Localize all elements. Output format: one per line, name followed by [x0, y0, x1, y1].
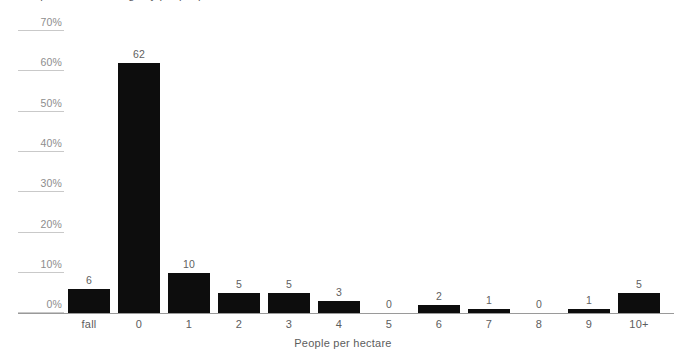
gridline	[18, 30, 64, 31]
y-axis-tick-label: 70%	[40, 16, 62, 28]
bar-series: 6 fall 62 0 10 1 5 2 5	[64, 0, 676, 313]
gridline	[18, 151, 64, 152]
bar-group-9[interactable]: 1 9	[564, 0, 614, 313]
x-axis-category-label: 2	[214, 318, 264, 330]
bar[interactable]	[418, 305, 460, 313]
bar[interactable]	[118, 63, 160, 313]
bar-group-2[interactable]: 5 2	[214, 0, 264, 313]
y-axis-tick-label: 40%	[40, 137, 62, 149]
x-axis-category-label: 0	[114, 318, 164, 330]
x-axis-category-label: 7	[464, 318, 514, 330]
bar-group-5[interactable]: 0 5	[364, 0, 414, 313]
bar-group-10plus[interactable]: 5 10+	[614, 0, 664, 313]
bar-value-label: 3	[314, 286, 364, 298]
bar[interactable]	[468, 309, 510, 313]
bar[interactable]	[268, 293, 310, 313]
x-axis-category-label: 1	[164, 318, 214, 330]
gridline	[18, 191, 64, 192]
x-axis-category-label: 4	[314, 318, 364, 330]
x-axis-category-label: 5	[364, 318, 414, 330]
x-axis-category-label: 3	[264, 318, 314, 330]
y-axis-tick-label: 0%	[46, 298, 62, 310]
bar-value-label: 1	[464, 294, 514, 306]
bar-value-label: 6	[64, 274, 114, 286]
x-axis-category-label: 6	[414, 318, 464, 330]
bar-group-3[interactable]: 5 3	[264, 0, 314, 313]
bar-value-label: 62	[114, 48, 164, 60]
bar[interactable]	[168, 273, 210, 313]
bar-group-8[interactable]: 0 8	[514, 0, 564, 313]
y-axis-tick-label: 10%	[40, 258, 62, 270]
bar[interactable]	[218, 293, 260, 313]
bar-group-4[interactable]: 3 4	[314, 0, 364, 313]
y-axis-tick-label: 30%	[40, 177, 62, 189]
plot-area: 0% 10% 20% 30% 40% 50% 60% 70%	[0, 0, 686, 353]
gridline	[18, 111, 64, 112]
bar-value-label: 10	[164, 258, 214, 270]
bar-group-1[interactable]: 10 1	[164, 0, 214, 313]
y-axis-tick-label: 60%	[40, 56, 62, 68]
x-axis-category-label: 9	[564, 318, 614, 330]
x-axis-category-label: fall	[64, 318, 114, 330]
bar-value-label: 0	[364, 298, 414, 310]
bar-value-label: 0	[514, 298, 564, 310]
bar[interactable]	[318, 301, 360, 313]
bar[interactable]	[618, 293, 660, 313]
x-axis-line	[18, 313, 674, 314]
bar[interactable]	[68, 289, 110, 313]
x-axis-title: People per hectare	[0, 337, 686, 349]
gridline	[18, 232, 64, 233]
gridline	[18, 70, 64, 71]
y-axis-tick-label: 20%	[40, 218, 62, 230]
bar-value-label: 2	[414, 290, 464, 302]
bar-group-7[interactable]: 1 7	[464, 0, 514, 313]
bar-chart: Proportion of dwellings by people per he…	[0, 0, 686, 353]
bar-group-6[interactable]: 2 6	[414, 0, 464, 313]
x-axis-category-label: 10+	[614, 318, 664, 330]
x-axis-category-label: 8	[514, 318, 564, 330]
bar-group-0[interactable]: 62 0	[114, 0, 164, 313]
gridline	[18, 272, 64, 273]
bar-value-label: 1	[564, 294, 614, 306]
y-axis-tick-label: 50%	[40, 97, 62, 109]
bar-value-label: 5	[214, 278, 264, 290]
bar-value-label: 5	[264, 278, 314, 290]
bar[interactable]	[568, 309, 610, 313]
bar-group-fall[interactable]: 6 fall	[64, 0, 114, 313]
bar-value-label: 5	[614, 278, 664, 290]
